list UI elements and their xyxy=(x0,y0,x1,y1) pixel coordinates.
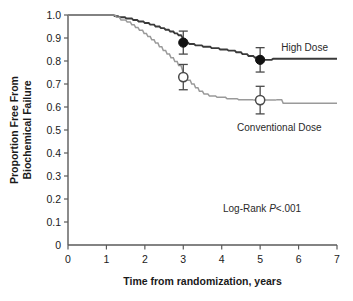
y-tick-label: 0 xyxy=(55,239,61,251)
x-axis-title-text: Time from randomization, years xyxy=(123,275,282,287)
y-tick-label: 1.0 xyxy=(46,9,61,21)
series-label-high-dose: High Dose xyxy=(281,42,328,53)
error-bar-marker xyxy=(256,48,265,72)
x-tick-label: 2 xyxy=(142,253,148,265)
y-axis-ticks: 00.10.20.30.40.50.60.70.80.91.0 xyxy=(46,9,68,251)
x-tick-label: 5 xyxy=(257,253,263,265)
error-bar-marker xyxy=(256,86,265,114)
filled-circle-icon xyxy=(179,38,188,47)
y-tick-label: 0.4 xyxy=(46,147,61,159)
kaplan-meier-figure: Proportion Free FromBiochemical Failure … xyxy=(0,0,353,301)
x-axis-title: Time from randomization, years xyxy=(123,275,282,287)
data-series xyxy=(68,15,337,103)
y-tick-label: 0.7 xyxy=(46,78,61,90)
chart-annotations: Log-Rank P<.001 xyxy=(223,203,302,214)
y-tick-label: 0.8 xyxy=(46,55,61,67)
y-tick-label: 0.5 xyxy=(46,124,61,136)
y-tick-label: 0.6 xyxy=(46,101,61,113)
series-line-high-dose xyxy=(68,15,337,60)
y-axis-title-line-2: Biochemical Failure xyxy=(21,80,33,179)
error-bar-marker xyxy=(179,64,188,89)
chart-canvas: Proportion Free FromBiochemical Failure … xyxy=(0,0,353,301)
x-axis-ticks: 01234567 xyxy=(65,245,340,265)
series-label-conventional-dose: Conventional Dose xyxy=(237,122,322,133)
y-tick-label: 0.1 xyxy=(46,216,61,228)
y-tick-label: 0.3 xyxy=(46,170,61,182)
filled-circle-icon xyxy=(256,55,265,64)
x-tick-label: 0 xyxy=(65,253,71,265)
open-circle-icon xyxy=(256,96,265,105)
x-tick-label: 4 xyxy=(219,253,225,265)
x-tick-label: 7 xyxy=(334,253,340,265)
x-tick-label: 6 xyxy=(296,253,302,265)
y-axis-title: Proportion Free FromBiochemical Failure xyxy=(8,76,33,184)
x-tick-label: 1 xyxy=(104,253,110,265)
open-circle-icon xyxy=(179,73,188,82)
log-rank-annotation: Log-Rank P<.001 xyxy=(223,203,302,214)
x-tick-label: 3 xyxy=(180,253,186,265)
y-tick-label: 0.9 xyxy=(46,32,61,44)
y-tick-label: 0.2 xyxy=(46,193,61,205)
y-axis-title-line-1: Proportion Free From xyxy=(8,76,20,184)
